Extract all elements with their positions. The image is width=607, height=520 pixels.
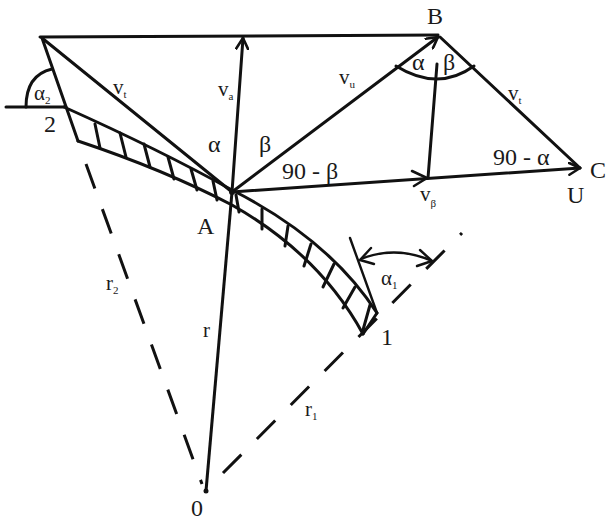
- label-r1: r1: [305, 397, 318, 422]
- label-C: C: [590, 157, 606, 183]
- point-a-dot: [229, 189, 235, 195]
- label-B: B: [427, 3, 443, 29]
- label-vbeta: vβ: [420, 182, 437, 209]
- radius-r2-dashed: [86, 164, 202, 484]
- top-line: [40, 35, 438, 37]
- label-alpha-A: α: [208, 131, 221, 157]
- label-vt-left: vt: [113, 75, 127, 100]
- label-A: A: [197, 213, 215, 239]
- label-point-1: 1: [381, 324, 393, 350]
- label-O: 0: [191, 495, 203, 520]
- blade-velocity-diagram: B C U A 0 1 2 vt va vu vt vβ r r1 r2 α β…: [0, 0, 607, 520]
- label-beta-B: β: [443, 49, 455, 75]
- label-r: r: [203, 318, 210, 342]
- label-vu: vu: [339, 65, 356, 90]
- label-r2: r2: [106, 271, 119, 296]
- vertical-drop: [428, 64, 437, 178]
- label-alpha1: α1: [381, 266, 398, 291]
- label-vt-right: vt: [508, 81, 522, 106]
- label-point-2: 2: [44, 111, 56, 137]
- angle-arc-alpha1: [361, 252, 432, 261]
- origin-point: [204, 489, 209, 494]
- label-U: U: [567, 182, 584, 208]
- label-90-minus-alpha: 90 - α: [493, 144, 550, 170]
- label-alpha2: α2: [34, 81, 51, 106]
- label-beta-A: β: [259, 131, 271, 157]
- vector-va: [232, 38, 243, 192]
- blade-edge-1: [350, 238, 377, 313]
- label-va: va: [218, 77, 234, 102]
- label-90-minus-beta: 90 - β: [282, 158, 338, 184]
- label-alpha-B: α: [412, 49, 425, 75]
